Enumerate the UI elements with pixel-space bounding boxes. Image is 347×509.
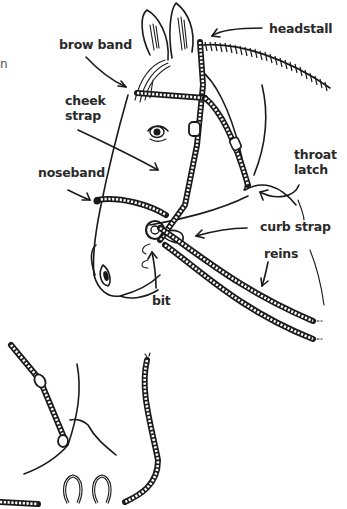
noseband-strap [94,198,167,216]
label-throat-latch-line1: throat [294,147,337,162]
headstall-strap [160,42,203,240]
label-throat-latch-line2: latch [294,162,337,177]
brow-band-strap [137,93,205,98]
horse-head [91,70,324,305]
throat-latch-strap [205,98,248,185]
label-cheek-strap-line1: cheek [65,93,106,108]
label-brow-band: brow band [59,37,132,52]
label-cheek-strap: cheek strap [65,93,106,123]
label-bit: bit [152,293,171,308]
mane [203,42,330,91]
rope-end [0,502,38,504]
ears [142,3,193,60]
label-noseband: noseband [38,165,105,180]
reins-straps [160,228,322,339]
bridle-diagram: n headstall brow band cheek strap throat… [0,0,347,509]
label-curb-strap: curb strap [260,219,331,234]
label-cheek-strap-line2: strap [65,108,106,123]
detached-strap [11,345,116,474]
label-reins: reins [264,246,298,261]
horseshoes [65,476,110,503]
label-headstall: headstall [269,21,332,36]
edge-text-fragment: n [0,57,8,71]
label-throat-latch: throat latch [294,147,337,177]
loose-rope [125,353,158,502]
